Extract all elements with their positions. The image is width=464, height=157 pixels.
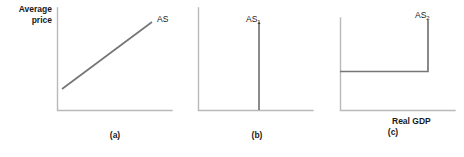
panel-c-curve-name: AS xyxy=(415,10,426,20)
aggregate-supply-figure: Average price Real GDP AS AS1 AS2 (a) (b… xyxy=(0,0,464,157)
panel-b-curve-subscript: 1 xyxy=(257,19,260,25)
panel-caption-c: (c) xyxy=(378,127,408,137)
panel-b-curve-label: AS1 xyxy=(246,14,261,24)
panel-a-as-curve xyxy=(62,22,152,89)
panel-caption-a: (a) xyxy=(100,130,130,140)
panel-caption-b: (b) xyxy=(242,130,272,140)
panel-c-axes xyxy=(341,18,456,111)
panel-a-curve-name: AS xyxy=(157,14,168,24)
panel-b-curve-name: AS xyxy=(246,14,257,24)
panel-c-as2-curve xyxy=(340,20,428,72)
panel-c-curve-subscript: 2 xyxy=(426,15,429,21)
panel-a-curve-label: AS xyxy=(157,14,168,24)
panel-c-curve-label: AS2 xyxy=(415,10,430,20)
panel-a-axes xyxy=(58,8,173,111)
